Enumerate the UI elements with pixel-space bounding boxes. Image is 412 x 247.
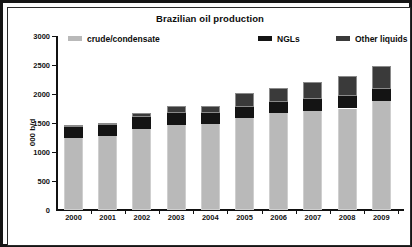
bar-segment-other-liquids [338, 76, 357, 96]
y-tick-label: 500 [16, 177, 50, 186]
chart-frame: Brazilian oil production crude/condensat… [0, 0, 412, 247]
x-tick-label: 2007 [296, 213, 330, 222]
chart-title: Brazilian oil production [8, 13, 412, 24]
bar-2000 [64, 36, 83, 210]
bar-segment-ngls [269, 102, 288, 114]
bar-segment-crude-condensate [64, 138, 83, 210]
bar-segment-other-liquids [98, 123, 117, 125]
x-tick-label: 2009 [364, 213, 398, 222]
y-tick-label: 1000 [16, 148, 50, 157]
bar-segment-crude-condensate [132, 129, 151, 210]
bar-segment-ngls [64, 127, 83, 138]
bar-segment-other-liquids [372, 66, 391, 89]
bar-segment-crude-condensate [338, 109, 357, 211]
bar-segment-crude-condensate [303, 111, 322, 210]
bar-segment-other-liquids [303, 82, 322, 99]
x-tick-label: 2002 [125, 213, 159, 222]
bar-2008 [338, 36, 357, 210]
bar-segment-crude-condensate [167, 125, 186, 210]
bar-2007 [303, 36, 322, 210]
bar-segment-other-liquids [201, 106, 220, 112]
y-tick-label: 1500 [16, 119, 50, 128]
x-tick-label: 2006 [262, 213, 296, 222]
chart-plot-wrapper: Brazilian oil production crude/condensat… [8, 8, 412, 247]
bar-2009 [372, 36, 391, 210]
bar-segment-crude-condensate [98, 136, 117, 210]
chart-inner-border: Brazilian oil production crude/condensat… [7, 7, 411, 246]
bar-segment-ngls [132, 117, 151, 129]
bar-2004 [201, 36, 220, 210]
y-tick-label: 3000 [16, 32, 50, 41]
bar-segment-ngls [201, 113, 220, 125]
x-tick-label: 2000 [57, 213, 91, 222]
x-tick-label: 2005 [228, 213, 262, 222]
bar-segment-other-liquids [167, 106, 186, 113]
bar-segment-other-liquids [132, 113, 151, 117]
bar-segment-crude-condensate [201, 124, 220, 210]
y-axis-line [56, 36, 58, 210]
x-tick-label: 2001 [91, 213, 125, 222]
bar-segment-ngls [372, 89, 391, 101]
x-tick-label: 2008 [330, 213, 364, 222]
bar-segment-crude-condensate [269, 113, 288, 210]
bar-2002 [132, 36, 151, 210]
bar-2006 [269, 36, 288, 210]
x-tick-label: 2003 [159, 213, 193, 222]
bar-2001 [98, 36, 117, 210]
bar-segment-other-liquids [235, 93, 254, 106]
y-tick-label: 0 [16, 206, 50, 215]
bar-segment-ngls [235, 107, 254, 119]
y-tick-label: 2500 [16, 61, 50, 70]
x-tick-label: 2004 [193, 213, 227, 222]
bar-segment-ngls [167, 113, 186, 125]
x-tick-mark [398, 210, 399, 214]
bar-segment-ngls [338, 96, 357, 108]
bar-segment-ngls [98, 125, 117, 136]
bar-segment-other-liquids [269, 88, 288, 102]
bar-segment-other-liquids [64, 125, 83, 127]
y-axis-tick-labels: 050010001500200025003000 [8, 8, 50, 247]
bar-segment-crude-condensate [235, 118, 254, 210]
bar-2005 [235, 36, 254, 210]
bar-segment-crude-condensate [372, 101, 391, 210]
bar-2003 [167, 36, 186, 210]
bar-segment-ngls [303, 99, 322, 111]
y-tick-label: 2000 [16, 90, 50, 99]
